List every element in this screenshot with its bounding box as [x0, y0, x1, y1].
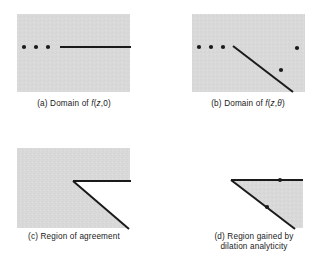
caption-d-line-1: (d) Region gained by: [190, 232, 318, 242]
figure-canvas: (a) Domain of f(z,0): [0, 0, 331, 268]
caption-d-line-2: dilation analyticity: [190, 242, 318, 252]
pole-dot: [278, 178, 282, 182]
panel-d-graphic: [0, 0, 331, 268]
pole-dot: [265, 205, 269, 209]
panel-d: (d) Region gained by dilation analyticit…: [0, 0, 331, 268]
caption-d: (d) Region gained by dilation analyticit…: [190, 232, 318, 251]
